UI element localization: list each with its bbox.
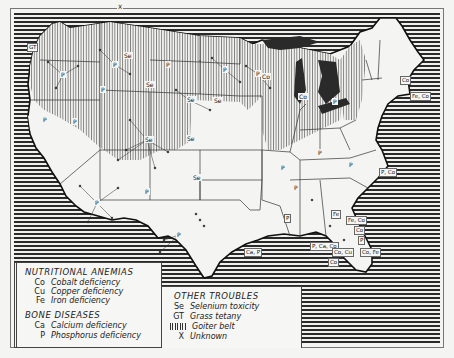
region-label: P, Co: [379, 168, 397, 177]
state-marker: P: [222, 66, 228, 73]
region-label: Co: [354, 226, 365, 235]
region-label: Fe, Co: [410, 92, 431, 101]
legend-item-unknown: XUnknown: [166, 332, 227, 341]
region-label: Co: [328, 258, 339, 267]
state-marker: P: [280, 164, 286, 171]
state-marker: Se: [145, 81, 155, 88]
legend-item-cobalt: CoCobalt deficiency: [27, 278, 120, 287]
lake-superior: [262, 36, 320, 50]
state-marker: P: [112, 61, 118, 68]
state-marker: Se: [144, 136, 154, 143]
state-marker: P: [42, 116, 48, 123]
state-marker: Se: [123, 52, 133, 59]
state-marker: P: [60, 71, 66, 78]
state-marker: Se: [213, 97, 223, 104]
legend-item-copper: CuCopper deficiency: [27, 287, 123, 296]
region-label: Fe: [331, 210, 341, 219]
state-marker: X: [117, 3, 123, 10]
legend-item-phosphorus: PPhosphorus deficiency: [27, 331, 141, 340]
legend-heading-other: OTHER TROUBLES: [174, 291, 259, 301]
region-label: P: [284, 214, 291, 223]
goiter-hatch-icon: [170, 323, 186, 330]
region-label: GT: [27, 43, 38, 52]
state-marker: P: [72, 118, 78, 125]
region-label: Fe, Co: [346, 216, 367, 225]
legend-box: NUTRITIONAL ANEMIAS CoCobalt deficiency …: [14, 262, 162, 348]
state-marker: P: [255, 70, 261, 77]
legend-item-goiter: Goiter belt: [170, 322, 235, 331]
legend-box-other: OTHER TROUBLES SeSelenium toxicity GTGra…: [162, 286, 302, 348]
state-marker: P: [176, 231, 182, 238]
region-label: Co, Fe: [360, 248, 381, 257]
state-marker: P: [293, 184, 299, 191]
state-marker: P: [100, 86, 106, 93]
region-label: Co, Cu: [332, 248, 354, 257]
state-marker: Se: [186, 135, 196, 142]
region-label: Co: [400, 76, 411, 85]
legend-item-selenium: SeSelenium toxicity: [166, 302, 259, 311]
state-marker: P: [94, 199, 100, 206]
state-marker: P: [144, 188, 150, 195]
state-marker: P: [317, 149, 323, 156]
state-marker: Se: [186, 96, 196, 103]
state-marker: Co: [261, 73, 271, 80]
legend-item-iron: FeIron deficiency: [27, 296, 110, 305]
legend-item-grass-tetany: GTGrass tetany: [166, 312, 241, 321]
legend-item-calcium: CaCalcium deficiency: [27, 321, 127, 330]
state-marker: P: [348, 161, 354, 168]
legend-heading-bone: BONE DISEASES: [25, 310, 100, 320]
region-label: P: [358, 236, 365, 245]
state-marker: Se: [192, 174, 202, 181]
region-label: Ca, P: [244, 248, 262, 257]
state-marker: P: [165, 61, 171, 68]
state-marker: Co: [298, 93, 308, 100]
state-marker: P: [332, 98, 338, 105]
legend-heading-anemias: NUTRITIONAL ANEMIAS: [25, 267, 133, 277]
